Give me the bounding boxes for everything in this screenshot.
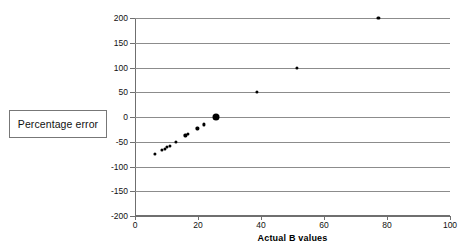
y-tick-200 <box>130 18 135 19</box>
y-tick-label-150: 150 <box>114 38 128 48</box>
data-point <box>377 16 380 19</box>
x-tick-label-60: 60 <box>319 220 328 230</box>
y-tick--150 <box>130 191 135 192</box>
x-tick-label-100: 100 <box>443 220 457 230</box>
gridline--150 <box>135 191 450 192</box>
x-axis-title: Actual B values <box>135 233 450 243</box>
data-point <box>168 144 171 147</box>
data-point <box>213 114 220 121</box>
y-axis-title-label: Percentage error <box>18 118 98 130</box>
x-tick-label-0: 0 <box>133 220 138 230</box>
y-tick--100 <box>130 167 135 168</box>
data-point <box>295 66 298 69</box>
y-tick-label-0: 0 <box>123 112 128 122</box>
data-point <box>174 140 177 143</box>
gridline-100 <box>135 68 450 69</box>
y-tick-label-200: 200 <box>114 13 128 23</box>
scatter-chart-figure: Percentage error 200150100500-50-100-150… <box>0 0 466 251</box>
data-point <box>202 123 205 126</box>
x-tick-label-20: 20 <box>193 220 202 230</box>
x-tick-label-80: 80 <box>382 220 391 230</box>
gridline-50 <box>135 92 450 93</box>
y-tick-label--200: -200 <box>111 211 128 221</box>
y-tick-label--100: -100 <box>111 162 128 172</box>
gridline--100 <box>135 167 450 168</box>
gridline--50 <box>135 142 450 143</box>
y-tick--50 <box>130 142 135 143</box>
data-point <box>255 91 258 94</box>
gridline-0 <box>135 117 450 118</box>
y-tick-label--50: -50 <box>116 137 128 147</box>
plot-area: 200150100500-50-100-150-200 020406080100 <box>135 18 450 216</box>
y-tick-label--150: -150 <box>111 186 128 196</box>
data-point <box>186 132 189 135</box>
y-tick-50 <box>130 92 135 93</box>
y-tick-100 <box>130 68 135 69</box>
gridline-150 <box>135 43 450 44</box>
data-point <box>196 127 199 130</box>
y-axis-title-box: Percentage error <box>9 110 107 138</box>
y-tick-150 <box>130 43 135 44</box>
y-tick-label-50: 50 <box>119 87 128 97</box>
y-tick-label-100: 100 <box>114 63 128 73</box>
data-point <box>153 153 156 156</box>
x-tick-label-40: 40 <box>256 220 265 230</box>
gridline-200 <box>135 18 450 19</box>
gridline--200 <box>135 216 450 217</box>
y-tick-0 <box>130 117 135 118</box>
